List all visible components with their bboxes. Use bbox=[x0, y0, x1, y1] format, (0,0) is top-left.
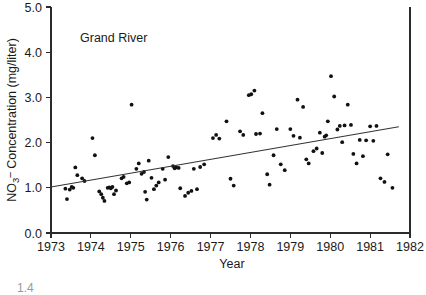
scatter-data-point bbox=[232, 184, 236, 188]
scatter-data-point bbox=[190, 189, 194, 193]
scatter-data-point bbox=[134, 167, 138, 171]
x-axis-tick-label: 1978 bbox=[237, 240, 265, 254]
next-figure-fragment: 1.4 bbox=[0, 282, 426, 295]
no3-concentration-scatter-chart: 0.01.02.03.04.05.0 197319741975197619771… bbox=[0, 0, 426, 295]
scatter-data-point bbox=[112, 192, 116, 196]
scatter-data-point bbox=[150, 176, 154, 180]
scatter-data-point bbox=[147, 159, 151, 163]
scatter-data-point bbox=[368, 124, 372, 128]
scatter-data-point bbox=[249, 92, 253, 96]
scatter-data-point bbox=[261, 111, 265, 115]
x-axis-tick-label: 1981 bbox=[356, 240, 384, 254]
scatter-data-point bbox=[217, 137, 221, 141]
scatter-data-point bbox=[93, 153, 97, 157]
scatter-data-point bbox=[326, 119, 330, 123]
figure-root: 0.01.02.03.04.05.0 197319741975197619771… bbox=[0, 0, 426, 295]
y-axis-tick-label: 4.0 bbox=[25, 46, 42, 60]
scatter-data-point bbox=[265, 172, 269, 176]
scatter-data-point bbox=[320, 151, 324, 155]
y-axis-ticks: 0.01.02.03.04.05.0 bbox=[25, 1, 51, 241]
scatter-data-point bbox=[225, 119, 229, 123]
scatter-data-point bbox=[143, 190, 147, 194]
scatter-data-point bbox=[258, 132, 262, 136]
x-axis-tick-label: 1973 bbox=[37, 240, 65, 254]
scatter-data-point bbox=[371, 139, 375, 143]
scatter-data-point bbox=[351, 152, 355, 156]
scatter-data-point bbox=[288, 127, 292, 131]
scatter-data-point bbox=[157, 180, 161, 184]
scatter-data-point bbox=[298, 136, 302, 140]
scatter-data-point bbox=[329, 74, 333, 78]
x-axis-tick-label: 1976 bbox=[157, 240, 185, 254]
scatter-data-point bbox=[145, 198, 149, 202]
scatter-data-point bbox=[238, 129, 242, 133]
x-axis-tick-label: 1980 bbox=[316, 240, 344, 254]
y-axis-tick-label: 3.0 bbox=[25, 91, 42, 105]
scatter-data-point bbox=[346, 103, 350, 107]
y-axis-title: NO3– Concentration (mg/liter) bbox=[4, 38, 21, 202]
scatter-data-point bbox=[324, 133, 328, 137]
scatter-data-point bbox=[375, 124, 379, 128]
scatter-data-point bbox=[71, 186, 75, 190]
scatter-data-point bbox=[163, 178, 167, 182]
scatter-data-point bbox=[253, 89, 257, 93]
x-axis-tick-label: 1977 bbox=[197, 240, 225, 254]
svg-text:NO3– Concentration (mg/liter): NO3– Concentration (mg/liter) bbox=[4, 38, 21, 202]
scatter-data-point bbox=[202, 162, 206, 166]
scatter-data-point bbox=[198, 165, 202, 169]
scatter-data-point bbox=[307, 161, 311, 165]
y-axis-tick-label: 0.0 bbox=[25, 227, 42, 241]
scatter-data-point bbox=[355, 161, 359, 165]
scatter-data-point bbox=[349, 123, 353, 127]
scatter-data-point bbox=[343, 124, 347, 128]
scatter-data-point bbox=[183, 194, 187, 198]
scatter-data-point bbox=[336, 128, 340, 132]
scatter-data-point bbox=[122, 175, 126, 179]
scatter-data-point bbox=[268, 183, 272, 187]
scatter-data-point bbox=[214, 133, 218, 137]
scatter-data-point bbox=[111, 185, 115, 189]
y-axis-tick-label: 1.0 bbox=[25, 181, 42, 195]
scatter-data-point bbox=[301, 105, 305, 109]
scatter-data-point bbox=[63, 187, 67, 191]
scatter-data-point bbox=[75, 173, 79, 177]
scatter-data-point bbox=[315, 147, 319, 151]
scatter-data-point bbox=[283, 168, 287, 172]
x-axis-ticks: 1973197419751976197719781979198019811982 bbox=[37, 233, 424, 254]
scatter-data-point bbox=[137, 161, 141, 165]
y-axis-title-rest: Concentration (mg/liter) bbox=[5, 38, 19, 172]
scatter-data-point bbox=[292, 134, 296, 138]
scatter-data-point bbox=[195, 187, 199, 191]
scatter-data-point bbox=[130, 103, 134, 107]
scatter-data-point bbox=[103, 199, 107, 203]
scatter-data-point bbox=[318, 131, 322, 135]
scatter-data-point bbox=[99, 192, 103, 196]
scatter-data-point bbox=[279, 162, 283, 166]
y-axis-title-prefix: NO bbox=[5, 183, 19, 202]
scatter-data-point bbox=[391, 186, 395, 190]
scatter-data-point bbox=[65, 197, 69, 201]
scatter-data-point bbox=[296, 98, 300, 102]
scatter-data-point bbox=[186, 191, 190, 195]
scatter-data-point bbox=[154, 184, 158, 188]
scatter-data-point bbox=[340, 140, 344, 144]
scatter-data-point bbox=[358, 138, 362, 142]
scatter-data-point bbox=[229, 177, 233, 181]
scatter-data-point bbox=[338, 124, 342, 128]
series-annotation-label: Grand River bbox=[80, 31, 147, 45]
scatter-data-point bbox=[177, 166, 181, 170]
scatter-data-point bbox=[272, 153, 276, 157]
x-axis-tick-label: 1975 bbox=[117, 240, 145, 254]
scatter-data-point bbox=[312, 149, 316, 153]
scatter-data-point bbox=[166, 155, 170, 159]
scatter-data-point bbox=[275, 127, 279, 131]
x-axis-tick-label: 1982 bbox=[396, 240, 424, 254]
scatter-data-point bbox=[114, 189, 118, 193]
scatter-data-point bbox=[73, 166, 77, 170]
scatter-data-point bbox=[383, 180, 387, 184]
scatter-data-point bbox=[152, 187, 156, 191]
x-axis-title: Year bbox=[219, 257, 244, 271]
scatter-data-point bbox=[254, 132, 258, 136]
scatter-data-point bbox=[127, 180, 131, 184]
scatter-data-point bbox=[364, 138, 368, 142]
